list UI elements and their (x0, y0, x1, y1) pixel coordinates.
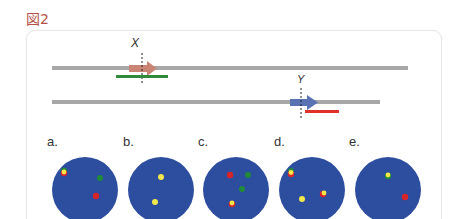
gene-x-label: X (131, 36, 139, 50)
gene-y-bar (305, 110, 339, 113)
dish-e (355, 157, 421, 219)
panel-label-a: a. (47, 134, 58, 149)
dish-a (52, 157, 118, 219)
panel-label-d: d. (274, 134, 285, 149)
panel-label-e: e. (349, 134, 360, 149)
dish-c (203, 157, 269, 219)
dish-d (279, 157, 345, 219)
gene-y-arrow-icon (290, 95, 318, 110)
panel-label-c: c. (198, 134, 208, 149)
dish-b (128, 157, 194, 219)
panel-label-b: b. (123, 134, 134, 149)
gene-x-arrow-icon (129, 61, 157, 76)
gene-y-label: Y (297, 73, 304, 85)
gene-x-bar (116, 75, 168, 78)
gene-diagram (0, 0, 463, 219)
